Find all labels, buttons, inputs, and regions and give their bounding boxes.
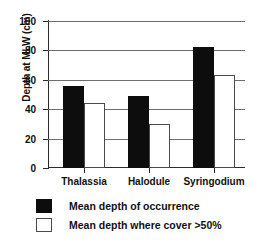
x-tick-thalassia bbox=[84, 168, 85, 173]
y-tick-label-0: 0 bbox=[30, 163, 36, 174]
y-tick-20: 20 bbox=[43, 139, 48, 140]
bar-syringodium-cover50[interactable] bbox=[214, 75, 235, 168]
y-tick-label-60: 60 bbox=[25, 74, 36, 85]
legend-swatch-light-icon bbox=[36, 218, 52, 232]
bar-group-syringodium bbox=[193, 21, 235, 168]
x-tick-label-thalassia: Thalassia bbox=[61, 176, 107, 187]
y-tick-label-80: 80 bbox=[25, 45, 36, 56]
y-tick-label-40: 40 bbox=[25, 104, 36, 115]
x-tick-label-halodule: Halodule bbox=[128, 176, 170, 187]
legend-label-cover50: Mean depth where cover >50% bbox=[69, 219, 222, 231]
y-tick-80: 80 bbox=[43, 50, 48, 51]
bar-halodule-cover50[interactable] bbox=[149, 124, 170, 168]
bar-group-thalassia bbox=[63, 21, 105, 168]
y-tick-100: 100 bbox=[43, 21, 48, 22]
bar-syringodium-occurrence[interactable] bbox=[193, 47, 214, 168]
legend-swatch-dark-icon bbox=[36, 199, 52, 213]
y-tick-label-20: 20 bbox=[25, 133, 36, 144]
y-tick-label-100: 100 bbox=[19, 16, 36, 27]
x-tick-label-syringodium: Syringodium bbox=[183, 176, 244, 187]
y-tick-0: 0 bbox=[43, 168, 48, 169]
chart-legend: Mean depth of occurrence Mean depth wher… bbox=[36, 196, 266, 234]
bar-thalassia-occurrence[interactable] bbox=[63, 86, 84, 168]
legend-item-cover50: Mean depth where cover >50% bbox=[36, 215, 266, 234]
legend-item-occurrence: Mean depth of occurrence bbox=[36, 196, 266, 215]
x-tick-halodule bbox=[149, 168, 150, 173]
legend-label-occurrence: Mean depth of occurrence bbox=[69, 200, 200, 212]
bar-halodule-occurrence[interactable] bbox=[128, 96, 149, 168]
x-tick-syringodium bbox=[214, 168, 215, 173]
y-axis-line bbox=[48, 20, 49, 169]
plot-area: 100 80 60 40 20 0 Thalassia bbox=[48, 21, 245, 168]
bar-group-halodule bbox=[128, 21, 170, 168]
y-tick-60: 60 bbox=[43, 80, 48, 81]
bar-chart-figure: Depth at MLW (cm) 100 80 60 40 20 0 bbox=[0, 0, 273, 246]
bar-thalassia-cover50[interactable] bbox=[84, 103, 105, 168]
y-tick-40: 40 bbox=[43, 109, 48, 110]
